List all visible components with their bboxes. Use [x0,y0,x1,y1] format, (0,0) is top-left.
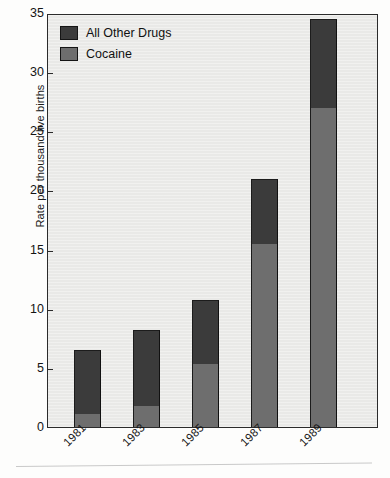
y-tick-label: 30 [18,66,44,79]
legend-label-all-other-drugs: All Other Drugs [86,26,171,40]
legend-swatch-cocaine [60,47,78,61]
y-tick-mark [47,310,53,311]
bar-segment-all-other-drugs [75,351,100,414]
legend-label-cocaine: Cocaine [86,47,132,61]
y-tick-label: 25 [18,125,44,138]
chart-legend: All Other Drugs Cocaine [60,23,171,65]
legend-item-all-other-drugs: All Other Drugs [60,23,171,42]
bar-1985 [192,300,219,427]
y-tick-label: 20 [18,184,44,197]
y-tick-mark [47,73,53,74]
bar-segment-cocaine [311,108,336,427]
page-edge-line [16,463,372,467]
bar-1989 [310,19,337,427]
y-tick-mark [47,191,53,192]
y-tick-label: 15 [18,244,44,257]
y-axis-ticks: 05101520253035 [14,0,44,478]
bar-segment-all-other-drugs [252,180,277,244]
bar-1981 [74,350,101,427]
bar-1983 [133,330,160,427]
plot-area: All Other Drugs Cocaine [47,14,378,428]
bar-segment-all-other-drugs [193,301,218,364]
bar-segment-cocaine [193,364,218,427]
y-tick-mark [47,132,53,133]
y-tick-mark [47,251,53,252]
bar-segment-all-other-drugs [311,20,336,108]
y-tick-label: 5 [18,362,44,375]
y-tick-label: 35 [18,7,44,20]
bar-1987 [251,179,278,427]
legend-swatch-all-other-drugs [60,26,78,40]
bar-segment-cocaine [252,244,277,427]
y-tick-label: 10 [18,303,44,316]
chart-figure: Rate per thousand live births 0510152025… [0,0,390,478]
legend-item-cocaine: Cocaine [60,44,171,63]
bar-segment-all-other-drugs [134,331,159,406]
y-tick-label: 0 [18,421,44,434]
y-tick-mark [47,369,53,370]
